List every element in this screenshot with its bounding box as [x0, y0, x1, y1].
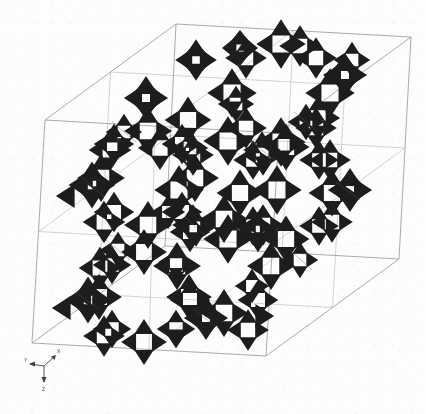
axis-label-x: X: [57, 348, 61, 354]
axis-label-z: Z: [42, 386, 45, 392]
structure-figure: Y X Z: [0, 0, 426, 414]
axis-arrow-y: [29, 362, 35, 367]
structure-canvas: Y X Z: [0, 0, 426, 414]
axis-label-y: Y: [24, 357, 28, 363]
tetrahedral-framework: [52, 19, 372, 365]
axis-indicator: Y X Z: [24, 348, 61, 392]
axis-arrow-z: [42, 377, 47, 383]
